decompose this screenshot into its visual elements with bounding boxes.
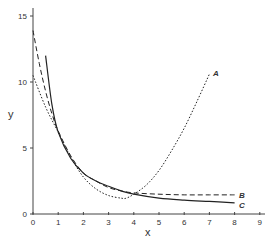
series-line-b bbox=[33, 31, 235, 195]
x-tick-label: 5 bbox=[157, 218, 162, 227]
y-ticks: 051015 bbox=[18, 12, 33, 219]
y-axis-label: y bbox=[8, 108, 14, 120]
y-tick-label: 0 bbox=[23, 210, 28, 219]
x-tick-label: 1 bbox=[56, 218, 61, 227]
y-tick-label: 15 bbox=[18, 12, 27, 21]
chart: 0123456789 051015 x y A B C bbox=[0, 0, 274, 242]
axes bbox=[33, 8, 265, 214]
y-tick-label: 10 bbox=[18, 78, 27, 87]
series-label-b: B bbox=[239, 191, 245, 200]
x-tick-label: 7 bbox=[207, 218, 212, 227]
x-tick-label: 9 bbox=[258, 218, 263, 227]
x-axis-label: x bbox=[145, 226, 151, 238]
x-tick-label: 3 bbox=[106, 218, 111, 227]
x-tick-label: 8 bbox=[232, 218, 237, 227]
series-label-a: A bbox=[212, 69, 219, 78]
x-tick-label: 6 bbox=[182, 218, 187, 227]
y-tick-label: 5 bbox=[23, 144, 28, 153]
x-tick-label: 4 bbox=[132, 218, 137, 227]
series-group bbox=[33, 31, 235, 203]
series-line-c bbox=[46, 56, 235, 203]
x-tick-label: 0 bbox=[31, 218, 36, 227]
series-label-c: C bbox=[239, 201, 245, 210]
x-tick-label: 2 bbox=[81, 218, 86, 227]
